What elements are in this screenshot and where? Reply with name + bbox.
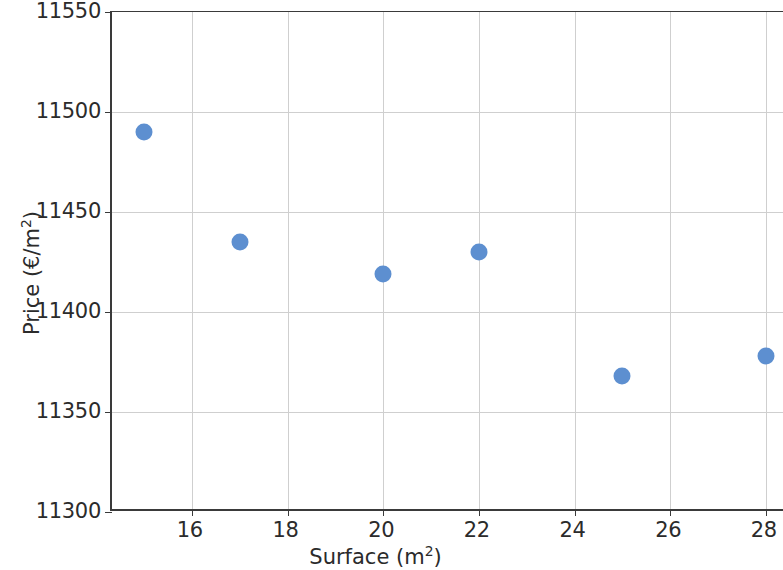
x-axis-tick <box>383 509 384 516</box>
plot-area <box>110 11 783 511</box>
x-axis-label: Surface (m2) <box>0 545 783 569</box>
y-axis-label-text: Price (€/m <box>20 228 44 335</box>
gridline-horizontal <box>112 212 783 213</box>
y-axis-label-superscript: 2 <box>18 219 34 228</box>
y-axis-tick-label: 11350 <box>0 399 101 423</box>
x-axis-tick <box>575 509 576 516</box>
x-axis-tick-label: 20 <box>368 518 394 542</box>
gridline-horizontal <box>112 112 783 113</box>
y-axis-tick <box>105 112 112 113</box>
data-point <box>614 368 631 385</box>
data-point <box>231 234 248 251</box>
x-axis-tick-label: 18 <box>272 518 298 542</box>
gridline-horizontal <box>112 412 783 413</box>
x-axis-tick <box>766 509 767 516</box>
y-axis-label: Price (€/m2) <box>20 123 44 423</box>
y-axis-label-tail: ) <box>20 211 44 219</box>
y-axis-tick-label: 11300 <box>0 499 101 523</box>
x-axis-tick-label: 22 <box>464 518 490 542</box>
x-axis-tick-label: 24 <box>559 518 585 542</box>
y-axis-tick-label: 11500 <box>0 99 101 123</box>
x-axis-label-text: Surface (m <box>309 545 424 569</box>
x-axis-tick <box>479 509 480 516</box>
gridline-vertical <box>670 12 671 509</box>
y-axis-tick <box>105 412 112 413</box>
gridline-vertical <box>575 12 576 509</box>
y-axis-tick-label: 11550 <box>0 0 101 23</box>
gridline-vertical <box>766 12 767 509</box>
data-point <box>757 348 774 365</box>
x-axis-tick-label: 28 <box>751 518 777 542</box>
y-axis-tick <box>105 12 112 13</box>
scatter-plot-figure: 113001135011400114501150011550 161820222… <box>0 0 783 570</box>
y-axis-tick-label: 11450 <box>0 199 101 223</box>
x-axis-tick-label: 26 <box>655 518 681 542</box>
x-axis-label-superscript: 2 <box>425 543 434 559</box>
data-point <box>375 266 392 283</box>
gridline-vertical <box>479 12 480 509</box>
y-axis-tick-label: 11400 <box>0 299 101 323</box>
gridline-horizontal <box>112 312 783 313</box>
y-axis-tick <box>105 212 112 213</box>
x-axis-tick-label: 16 <box>177 518 203 542</box>
y-axis-tick <box>105 312 112 313</box>
x-axis-tick <box>670 509 671 516</box>
x-axis-tick <box>288 509 289 516</box>
y-axis-tick <box>105 512 112 513</box>
x-axis-label-tail: ) <box>433 545 441 569</box>
data-point <box>136 124 153 141</box>
gridline-vertical <box>288 12 289 509</box>
gridline-vertical <box>383 12 384 509</box>
data-point <box>470 244 487 261</box>
gridline-vertical <box>192 12 193 509</box>
x-axis-tick <box>192 509 193 516</box>
